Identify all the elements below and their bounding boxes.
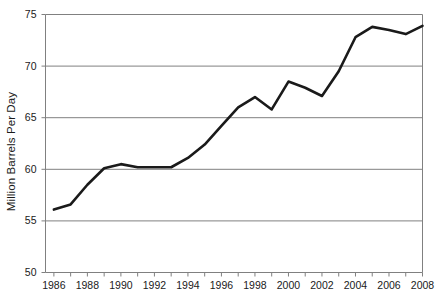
x-tick-label: 2008 (403, 280, 437, 291)
y-tick-label: 50 (13, 267, 37, 277)
gridlines (46, 66, 423, 221)
y-tick-label: 75 (13, 9, 37, 19)
plot-area (0, 0, 437, 303)
chart-container: Million Barrels Per Day 505560657075 198… (0, 0, 437, 303)
y-tick-label: 60 (13, 164, 37, 174)
plot-frame (46, 15, 423, 273)
y-axis-ticks (42, 15, 46, 273)
y-tick-label: 70 (13, 61, 37, 71)
x-axis-ticks (54, 273, 423, 277)
y-tick-label: 65 (13, 112, 37, 122)
y-tick-label: 55 (13, 215, 37, 225)
